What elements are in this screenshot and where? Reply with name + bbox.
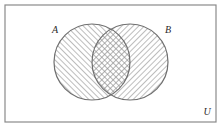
set-a-label: A <box>51 24 59 35</box>
venn-diagram-canvas: A B U <box>0 0 222 128</box>
venn-diagram-figure: A B U <box>0 0 222 128</box>
universe-label: U <box>203 106 211 117</box>
set-b-label: B <box>165 24 171 35</box>
